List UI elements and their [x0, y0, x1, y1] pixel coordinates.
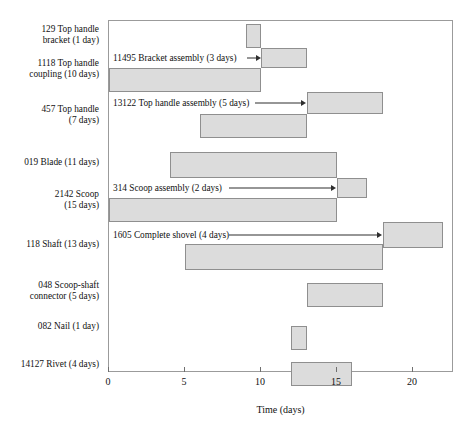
bar-019-blade	[170, 152, 337, 178]
x-tick-label-15: 15	[331, 376, 341, 387]
x-axis: 0 5 10 15 20	[108, 372, 453, 373]
x-tick-0	[108, 367, 109, 372]
annotation-label-complete-shovel: 1605 Complete shovel (4 days)	[113, 230, 229, 241]
x-tick-label-10: 10	[255, 376, 265, 387]
row-label-shaft: 118 Shaft (13 days)	[0, 239, 103, 250]
leader-line-scoop-assembly	[229, 188, 331, 189]
leader-arrow-complete-shovel	[377, 232, 382, 238]
row-label-rivet: 14127 Rivet (4 days)	[0, 359, 103, 370]
annotation-scoop-assembly: 314 Scoop assembly (2 days)	[109, 178, 452, 198]
x-tick-label-20: 20	[407, 376, 417, 387]
row-label-nail: 082 Nail (1 day)	[0, 321, 103, 332]
row-label-bracket: 129 Top handle bracket (1 day)	[0, 24, 103, 46]
bar-1118-top-handle-coupling	[109, 68, 261, 92]
x-tick-15	[336, 367, 337, 372]
row-label-top-handle: 457 Top handle (7 days)	[0, 104, 103, 126]
bar-129-top-handle-bracket	[246, 24, 261, 48]
leader-line-top-handle-assembly	[255, 103, 301, 104]
x-tick-label-5: 5	[182, 376, 187, 387]
row-label-coupling: 1118 Top handle coupling (10 days)	[0, 58, 103, 80]
annotation-bracket-assembly: 11495 Bracket assembly (3 days)	[109, 48, 452, 68]
annotation-top-handle-assembly: 13122 Top handle assembly (5 days)	[109, 92, 452, 114]
x-axis-title: Time (days)	[108, 404, 453, 415]
annotation-label-scoop-assembly: 314 Scoop assembly (2 days)	[113, 183, 222, 194]
x-tick-20	[412, 367, 413, 372]
leader-arrow-top-handle-assembly	[301, 100, 306, 106]
leader-line-bracket-assembly	[247, 58, 256, 59]
row-label-blade: 019 Blade (11 days)	[0, 157, 103, 168]
bar-048-scoop-shaft-connector	[307, 283, 383, 307]
bar-457-top-handle	[200, 114, 306, 138]
x-tick-label-0: 0	[106, 376, 111, 387]
annotation-label-bracket-assembly: 11495 Bracket assembly (3 days)	[113, 53, 237, 64]
bar-14127-rivet	[291, 362, 352, 386]
plot-area: 11495 Bracket assembly (3 days) 13122 To…	[108, 20, 453, 372]
bar-082-nail	[291, 326, 306, 350]
leader-arrow-scoop-assembly	[331, 185, 336, 191]
row-label-column: 129 Top handle bracket (1 day) 1118 Top …	[0, 20, 103, 372]
leader-line-complete-shovel	[229, 235, 377, 236]
bar-118-shaft	[185, 244, 383, 270]
x-tick-5	[184, 367, 185, 372]
leader-arrow-bracket-assembly	[256, 55, 261, 61]
x-tick-10	[260, 367, 261, 372]
row-label-scoop: 2142 Scoop (15 days)	[0, 189, 103, 211]
gantt-chart-figure: 129 Top handle bracket (1 day) 1118 Top …	[0, 0, 471, 428]
annotation-label-top-handle-assembly: 13122 Top handle assembly (5 days)	[113, 98, 249, 109]
row-label-connector: 048 Scoop-shaft connector (5 days)	[0, 280, 103, 302]
bar-2142-scoop	[109, 198, 337, 222]
